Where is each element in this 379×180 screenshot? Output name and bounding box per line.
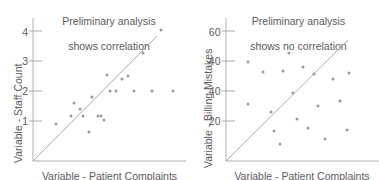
data-point <box>246 61 249 64</box>
data-point <box>281 70 284 73</box>
data-point <box>345 129 348 132</box>
data-point <box>295 118 298 121</box>
data-point <box>121 78 124 81</box>
data-point <box>82 115 85 118</box>
chart-panel-left: Preliminary analysis shows correlation V… <box>0 0 190 180</box>
data-point <box>151 90 154 93</box>
data-point <box>331 78 334 81</box>
data-point <box>246 103 249 106</box>
data-point <box>258 44 261 47</box>
data-point <box>127 75 130 78</box>
data-point <box>338 100 341 103</box>
data-point <box>91 96 94 99</box>
data-point <box>347 72 350 75</box>
data-point <box>133 90 136 93</box>
data-point <box>100 115 103 118</box>
data-point <box>55 123 58 126</box>
data-point <box>301 66 304 69</box>
data-point <box>291 92 294 95</box>
data-points-right <box>246 44 350 146</box>
data-point <box>316 105 319 108</box>
data-point <box>172 90 175 93</box>
data-point <box>272 130 275 133</box>
data-point <box>287 52 290 55</box>
reference-line-left <box>33 36 157 161</box>
x-axis-label-right: Variable - Patient Complaints <box>226 170 379 180</box>
scatter-plot-figure: Preliminary analysis shows correlation V… <box>0 0 379 180</box>
data-point <box>115 90 118 93</box>
x-axis-label-left: Variable - Patient Complaints <box>33 170 186 180</box>
data-point <box>323 138 326 141</box>
reference-line-right <box>226 40 348 161</box>
chart-panel-right: Preliminary analysis shows no correlatio… <box>190 0 379 180</box>
plot-area-right <box>190 0 379 180</box>
data-point <box>73 102 76 105</box>
plot-area-left <box>0 0 190 180</box>
data-point <box>269 111 272 114</box>
data-point <box>160 29 163 32</box>
data-point <box>109 90 112 93</box>
data-point <box>278 143 281 146</box>
data-point <box>103 119 106 122</box>
data-point <box>88 131 91 134</box>
data-point <box>306 127 309 130</box>
data-points-left <box>55 29 175 134</box>
data-point <box>97 115 100 118</box>
data-point <box>70 115 73 118</box>
data-point <box>312 73 315 76</box>
data-point <box>79 108 82 111</box>
data-point <box>106 74 109 77</box>
data-point <box>142 52 145 55</box>
data-point <box>261 71 264 74</box>
